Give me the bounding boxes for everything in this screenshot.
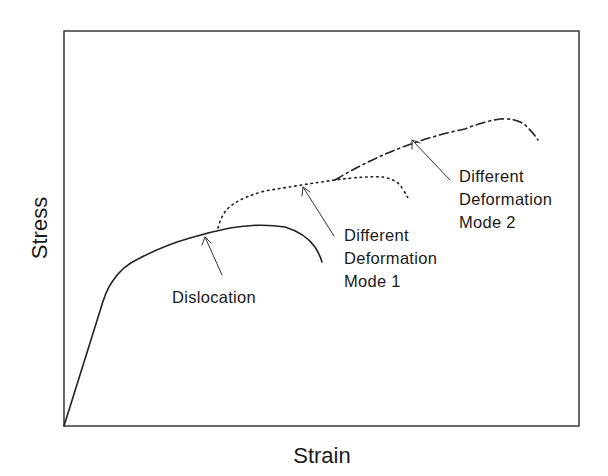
mode2-label-line3: Mode 2 <box>459 213 516 231</box>
dislocation-curve <box>64 225 322 426</box>
mode1-label-line3: Mode 1 <box>344 272 401 290</box>
mode1-label: Different Deformation Mode 1 <box>344 226 437 290</box>
dislocation-arrow <box>202 237 222 275</box>
x-axis-label: Strain <box>293 443 350 468</box>
mode1-label-line2: Deformation <box>344 249 437 267</box>
mode1-arrow <box>302 187 334 236</box>
mode2-label-line2: Deformation <box>459 190 552 208</box>
mode2-label-line1: Different <box>459 167 524 185</box>
mode2-label: Different Deformation Mode 2 <box>459 167 552 231</box>
dislocation-label: Dislocation <box>172 288 256 306</box>
mode2-arrow <box>412 140 450 180</box>
stress-strain-chart: Dislocation Different Deformation Mode 1… <box>0 0 608 476</box>
mode1-label-line1: Different <box>344 226 409 244</box>
y-axis-label: Stress <box>27 197 52 259</box>
